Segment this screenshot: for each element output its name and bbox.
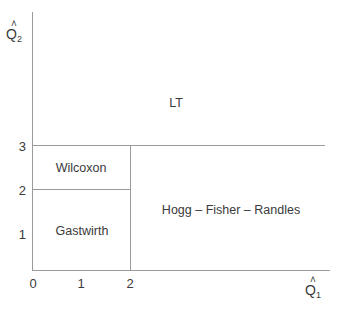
x-tick-label-2: 2 (120, 277, 140, 290)
q1-hat-symbol: ˄Q1 (305, 284, 321, 302)
partition-line-y2 (32, 189, 131, 190)
y-tick-label-1: 1 (19, 228, 26, 241)
q2-subscript: 2 (17, 34, 22, 44)
x-tick-0: 0 (23, 277, 43, 290)
partition-line-y3 (32, 145, 325, 146)
x-tick-2: 2 (120, 277, 140, 290)
region-label-wilcoxon: Wilcoxon (56, 161, 107, 175)
y-tick-label-3: 3 (19, 140, 26, 153)
hat-accent-icon: ˄ (310, 275, 316, 285)
region-label-lt: LT (169, 96, 183, 110)
hat-accent-icon: ˄ (11, 19, 17, 29)
y-tick-label-2: 2 (19, 184, 26, 197)
q1-subscript: 1 (316, 290, 321, 300)
x-tick-label-0: 0 (23, 277, 43, 290)
x-axis-title: ˄Q1 (305, 284, 321, 302)
partition-line-x2 (130, 145, 131, 271)
region-label-gastwirth: Gastwirth (56, 224, 109, 238)
x-axis-line (32, 270, 330, 271)
region-label-hogg-fisher-randles: Hogg – Fisher – Randles (162, 203, 300, 217)
y-axis-line (32, 12, 33, 271)
partition-diagram: ˄Q2 ˄Q1 3 2 1 0 1 2 LT Wilcoxon Gastwirt… (0, 0, 337, 312)
y-axis-title: ˄Q2 (6, 28, 22, 46)
q2-hat-symbol: ˄Q2 (6, 28, 22, 46)
x-tick-label-1: 1 (71, 277, 91, 290)
x-tick-1: 1 (71, 277, 91, 290)
